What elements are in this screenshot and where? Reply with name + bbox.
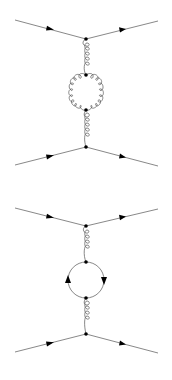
gluon-propagator-upper bbox=[83, 226, 89, 262]
gluon-propagator-lower bbox=[84, 110, 89, 147]
arrow-icon bbox=[119, 215, 126, 220]
vertex bbox=[84, 296, 88, 300]
arrow-icon bbox=[46, 214, 54, 219]
arrow-down-icon bbox=[101, 277, 107, 285]
feynman-diagrams bbox=[0, 0, 172, 380]
diagram-gluon-loop bbox=[15, 20, 158, 166]
vertex bbox=[84, 260, 88, 264]
gluon-propagator-lower bbox=[84, 298, 89, 334]
vertex bbox=[84, 108, 88, 112]
gluon-loop bbox=[69, 74, 104, 111]
arrow-up-icon bbox=[65, 275, 71, 283]
arrow-icon bbox=[119, 154, 126, 159]
quark-loop bbox=[68, 262, 104, 298]
vertex bbox=[84, 37, 88, 41]
arrow-icon bbox=[46, 155, 54, 160]
vertex bbox=[84, 73, 88, 77]
arrow-icon bbox=[46, 342, 54, 347]
arrow-icon bbox=[119, 27, 126, 32]
diagram-quark-loop bbox=[15, 208, 158, 353]
vertex bbox=[84, 145, 88, 149]
arrow-icon bbox=[119, 341, 126, 346]
diagram-svg bbox=[0, 0, 172, 380]
vertex bbox=[84, 224, 88, 228]
arrow-icon bbox=[46, 26, 54, 31]
gluon-propagator-upper bbox=[83, 39, 89, 75]
vertex bbox=[84, 332, 88, 336]
